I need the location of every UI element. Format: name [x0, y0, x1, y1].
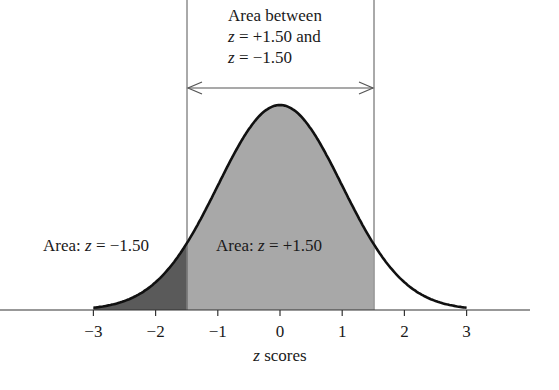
- x-axis-label: z scores: [253, 346, 306, 366]
- x-tick-label: 1: [338, 322, 347, 342]
- center-area-label: Area: z = +1.50: [216, 236, 322, 256]
- x-tick-label: −2: [147, 322, 165, 342]
- area-between-annotation: Area between z = +1.50 and z = −1.50: [228, 6, 322, 69]
- x-tick-label: 3: [462, 322, 471, 342]
- annotation-line-2: z = +1.50 and: [228, 27, 322, 48]
- x-tick-label: 0: [276, 322, 285, 342]
- annotation-line-3: z = −1.50: [228, 48, 322, 69]
- center-shaded-area: [187, 105, 374, 310]
- x-axis-ticks: [93, 310, 466, 316]
- annotation-line-1: Area between: [228, 6, 322, 27]
- x-tick-label: 2: [400, 322, 409, 342]
- x-tick-label: −3: [84, 322, 102, 342]
- double-arrow: [188, 82, 373, 94]
- x-tick-label: −1: [209, 322, 227, 342]
- left-tail-label: Area: z = −1.50: [43, 236, 149, 256]
